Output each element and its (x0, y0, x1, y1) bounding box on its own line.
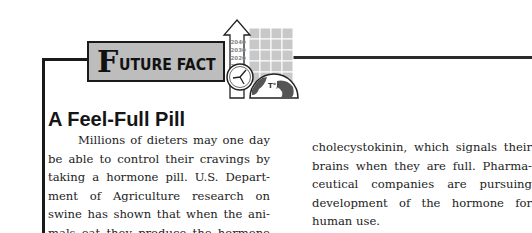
text-line: taking a hormone pill. U.S. Depart- (48, 168, 270, 187)
article-column-1: Millions of dieters may one day be able … (48, 131, 270, 233)
svg-text:T°/: T°/ (268, 82, 279, 90)
frame-left-rule (42, 58, 45, 233)
text-line: brains when they are full. Pharma- (312, 157, 532, 176)
future-timeline-icon: T°/ 2040 2030 2020 2010 (215, 15, 310, 105)
text-line: mals eat they produce the hormone (48, 224, 270, 233)
text-line: ceutical companies are pursuing (312, 175, 532, 194)
banner-label: UTURE FACT (119, 55, 216, 74)
year-2030: 2030 (231, 47, 246, 53)
frame-top-rule-left (42, 58, 88, 61)
text-line: development of the hormone for (312, 194, 532, 213)
year-2020: 2020 (231, 55, 246, 61)
text-line: ment of Agriculture research on (48, 187, 270, 206)
future-fact-banner: F UTURE FACT (87, 41, 225, 82)
year-2040: 2040 (231, 39, 246, 45)
article-title: A Feel-Full Pill (48, 108, 185, 131)
frame-top-rule-right (292, 56, 532, 59)
text-line: Millions of dieters may one day (48, 131, 270, 150)
arrow-clock-globe-icon: T°/ 2040 2030 2020 2010 (215, 15, 310, 105)
text-line: human use. (312, 212, 532, 231)
article-column-2: cholecystokinin, which signals their bra… (312, 138, 532, 231)
text-line: cholecystokinin, which signals their (312, 138, 532, 157)
text-line: be able to control their cravings by (48, 150, 270, 169)
text-line: swine has shown that when the ani- (48, 205, 270, 224)
banner-initial: F (97, 47, 118, 77)
